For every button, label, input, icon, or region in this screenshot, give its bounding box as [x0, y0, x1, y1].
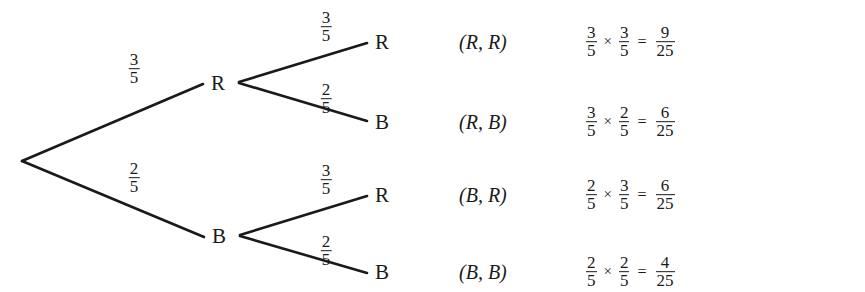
branch-prob-b-to-bb: 2 5: [321, 233, 332, 269]
fraction-denominator: 5: [321, 27, 332, 45]
fraction-denominator: 5: [321, 180, 332, 198]
fraction-numerator: 2: [619, 254, 630, 271]
fraction-denominator: 5: [619, 272, 630, 290]
equation-factor1: 2 5: [586, 177, 597, 213]
fraction-denominator: 5: [619, 195, 630, 213]
equation-result: 6 25: [656, 104, 675, 140]
branch-prob-root-to-r: 3 5: [129, 51, 140, 87]
equation-bb: 2 5 × 2 5 = 4 25: [586, 254, 675, 290]
probability-tree-diagram: R B R B R B 3 5 2 5 3 5 2 5 3 5 2 5 (R, …: [0, 0, 865, 292]
multiply-operator: ×: [597, 187, 619, 204]
equation-result: 6 25: [656, 177, 675, 213]
equation-result: 4 25: [656, 254, 675, 290]
node-level1-b: B: [212, 226, 226, 247]
outcome-pair-rb: (R, B): [459, 112, 507, 132]
equals-sign: =: [629, 33, 655, 51]
branch-r-to-rr: [239, 43, 367, 82]
fraction-numerator: 4: [656, 254, 675, 271]
fraction-denominator: 5: [586, 122, 597, 140]
fraction-numerator: 9: [656, 24, 675, 41]
fraction-numerator: 3: [619, 177, 630, 194]
fraction-denominator: 25: [656, 42, 675, 60]
outcome-pair-bb: (B, B): [459, 262, 507, 282]
multiply-operator: ×: [597, 264, 619, 281]
fraction-denominator: 5: [619, 42, 630, 60]
fraction-denominator: 5: [129, 69, 140, 87]
fraction-denominator: 5: [586, 42, 597, 60]
fraction-denominator: 25: [656, 272, 675, 290]
fraction-numerator: 2: [321, 81, 332, 98]
branch-prob-b-to-br: 3 5: [321, 162, 332, 198]
branch-prob-r-to-rb: 2 5: [321, 81, 332, 117]
fraction-numerator: 3: [321, 162, 332, 179]
equation-factor1: 3 5: [586, 24, 597, 60]
branch-prob-r-to-rr: 3 5: [321, 9, 332, 45]
fraction-numerator: 2: [586, 177, 597, 194]
outcome-pair-br: (B, R): [459, 185, 507, 205]
fraction-numerator: 3: [619, 24, 630, 41]
branch-b-to-br: [240, 196, 367, 235]
fraction-denominator: 25: [656, 195, 675, 213]
multiply-operator: ×: [597, 114, 619, 131]
tree-branches: [0, 0, 865, 292]
equation-rb: 3 5 × 2 5 = 6 25: [586, 104, 675, 140]
node-level2-rr: R: [375, 32, 389, 53]
branch-prob-root-to-b: 2 5: [129, 160, 140, 196]
fraction-denominator: 25: [656, 122, 675, 140]
fraction-denominator: 5: [619, 122, 630, 140]
fraction-denominator: 5: [586, 272, 597, 290]
equals-sign: =: [629, 113, 655, 131]
branch-root-to-r: [22, 84, 203, 161]
equation-factor2: 3 5: [619, 177, 630, 213]
fraction-numerator: 2: [321, 233, 332, 250]
fraction-denominator: 5: [321, 99, 332, 117]
fraction-numerator: 2: [129, 160, 140, 177]
equation-result: 9 25: [656, 24, 675, 60]
node-level2-br: R: [375, 185, 389, 206]
fraction-numerator: 6: [656, 177, 675, 194]
equation-factor2: 2 5: [619, 254, 630, 290]
fraction-numerator: 2: [586, 254, 597, 271]
fraction-denominator: 5: [321, 251, 332, 269]
node-level2-bb: B: [375, 262, 389, 283]
equation-factor1: 2 5: [586, 254, 597, 290]
fraction-numerator: 3: [586, 104, 597, 121]
equals-sign: =: [629, 263, 655, 281]
fraction-denominator: 5: [586, 195, 597, 213]
fraction-numerator: 3: [321, 9, 332, 26]
branch-r-to-rb: [239, 83, 367, 121]
branch-root-to-b: [22, 161, 204, 237]
node-level2-rb: B: [375, 112, 389, 133]
equation-factor1: 3 5: [586, 104, 597, 140]
equation-rr: 3 5 × 3 5 = 9 25: [586, 24, 675, 60]
multiply-operator: ×: [597, 34, 619, 51]
equals-sign: =: [629, 186, 655, 204]
node-level1-r: R: [211, 73, 225, 94]
fraction-numerator: 2: [619, 104, 630, 121]
outcome-pair-rr: (R, R): [459, 32, 507, 52]
fraction-numerator: 3: [129, 51, 140, 68]
equation-br: 2 5 × 3 5 = 6 25: [586, 177, 675, 213]
fraction-numerator: 3: [586, 24, 597, 41]
fraction-numerator: 6: [656, 104, 675, 121]
branch-b-to-bb: [240, 236, 367, 273]
equation-factor2: 2 5: [619, 104, 630, 140]
fraction-denominator: 5: [129, 178, 140, 196]
equation-factor2: 3 5: [619, 24, 630, 60]
